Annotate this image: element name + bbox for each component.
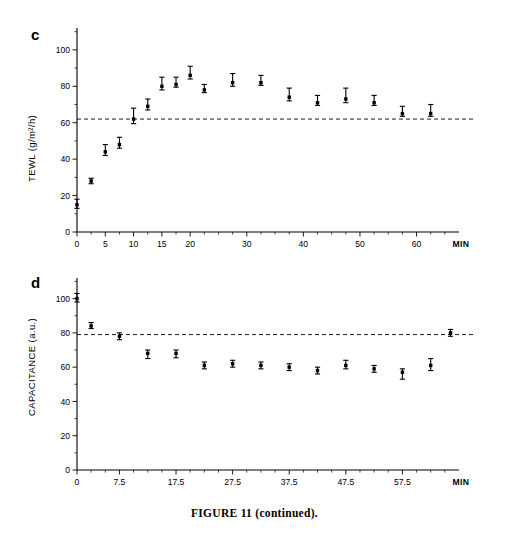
data-point-marker <box>449 331 452 334</box>
y-tick-label: 80 <box>60 81 70 91</box>
x-tick-label: 37.5 <box>281 477 298 487</box>
x-tick-label: 47.5 <box>337 477 354 487</box>
panel-c-letter: c <box>31 26 39 43</box>
data-point-marker <box>146 105 149 108</box>
data-point <box>202 84 207 92</box>
y-tick-label: 0 <box>65 227 70 237</box>
data-point-marker <box>288 96 291 99</box>
x-tick-label: 10 <box>129 239 139 249</box>
data-point-marker <box>132 117 135 120</box>
y-tick-label: 100 <box>56 45 71 55</box>
data-point-marker <box>344 97 347 100</box>
data-point-marker <box>75 297 78 300</box>
x-tick-label: 5 <box>103 239 108 249</box>
y-tick-label: 60 <box>60 362 70 372</box>
y-tick-label: 100 <box>56 294 71 304</box>
data-point-marker <box>203 88 206 91</box>
data-point <box>287 88 292 101</box>
data-point-marker <box>89 324 92 327</box>
data-point <box>448 329 453 336</box>
x-tick-label: 60 <box>412 239 422 249</box>
data-point <box>287 364 292 371</box>
data-point <box>372 95 377 105</box>
x-tick-label: 57.5 <box>394 477 411 487</box>
panel-d: d CAPACITANCE (a.u.) 02040608010007.517.… <box>0 264 509 496</box>
panel-d-plot: 02040608010007.517.527.537.547.557.5MIN <box>55 270 495 492</box>
y-tick-label: 60 <box>60 118 70 128</box>
data-point <box>202 362 207 369</box>
panel-c-svg: 0204060801000510152030405060MIN <box>55 20 495 260</box>
data-series-1 <box>74 66 433 208</box>
x-tick-label: 50 <box>355 239 365 249</box>
data-point <box>315 367 320 374</box>
data-point-marker <box>118 335 121 338</box>
panel-c-y-axis-label: TEWL (g/m²/h) <box>26 115 37 182</box>
data-point-marker <box>174 352 177 355</box>
panel-d-svg: 02040608010007.517.527.537.547.557.5MIN <box>55 270 495 492</box>
data-point-marker <box>316 101 319 104</box>
data-point-marker <box>231 81 234 84</box>
panel-c: c TEWL (g/m²/h) 020406080100051015203040… <box>0 14 509 264</box>
data-point-marker <box>160 85 163 88</box>
data-point <box>258 362 263 369</box>
data-point <box>74 293 79 302</box>
data-point-marker <box>259 364 262 367</box>
data-point <box>103 145 108 156</box>
data-point-marker <box>231 362 234 365</box>
y-tick-label: 20 <box>60 431 70 441</box>
data-point <box>230 74 235 87</box>
panel-d-y-axis-label: CAPACITANCE (a.u.) <box>26 318 37 416</box>
x-tick-label: 20 <box>185 239 195 249</box>
data-point <box>173 77 178 87</box>
data-point <box>428 359 433 371</box>
data-point <box>188 66 193 79</box>
x-tick-label: 27.5 <box>224 477 241 487</box>
data-point <box>258 75 263 85</box>
x-axis-unit-label: MIN <box>453 477 470 487</box>
data-series-1 <box>74 293 453 379</box>
data-point-marker <box>288 365 291 368</box>
data-point <box>117 137 122 148</box>
data-point-marker <box>372 367 375 370</box>
data-point <box>117 333 122 340</box>
panel-c-plot: 0204060801000510152030405060MIN <box>55 20 495 260</box>
panel-d-letter: d <box>31 274 40 291</box>
y-tick-label: 20 <box>60 191 70 201</box>
figure-container: c TEWL (g/m²/h) 020406080100051015203040… <box>0 0 509 533</box>
data-point-marker <box>344 364 347 367</box>
x-axis-unit-label: MIN <box>453 239 470 249</box>
data-point-marker <box>372 101 375 104</box>
data-point-marker <box>203 364 206 367</box>
x-tick-label: 40 <box>299 239 309 249</box>
data-point-marker <box>401 371 404 374</box>
data-point-marker <box>174 83 177 86</box>
data-point-marker <box>89 179 92 182</box>
data-point <box>372 365 377 372</box>
data-point <box>428 105 433 117</box>
data-point <box>315 95 320 105</box>
x-tick-label: 17.5 <box>168 477 185 487</box>
x-tick-label: 0 <box>75 477 80 487</box>
data-point-marker <box>188 74 191 77</box>
data-point <box>145 350 150 359</box>
data-point-marker <box>259 81 262 84</box>
x-tick-label: 7.5 <box>113 477 125 487</box>
data-point <box>230 360 235 367</box>
data-point-marker <box>75 203 78 206</box>
x-tick-label: 30 <box>242 239 252 249</box>
y-tick-label: 80 <box>60 328 70 338</box>
data-point-marker <box>429 364 432 367</box>
data-point-marker <box>146 352 149 355</box>
data-point <box>145 99 150 110</box>
data-point-marker <box>401 112 404 115</box>
x-tick-label: 0 <box>75 239 80 249</box>
data-point <box>400 369 405 379</box>
data-point <box>343 88 348 103</box>
data-point-marker <box>104 150 107 153</box>
data-point <box>343 360 348 369</box>
data-point <box>89 178 94 183</box>
y-tick-label: 40 <box>60 397 70 407</box>
data-point <box>173 350 178 358</box>
data-point <box>74 199 79 208</box>
data-point-marker <box>429 112 432 115</box>
